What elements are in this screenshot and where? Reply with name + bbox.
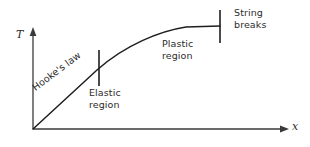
plastic-region-label-line1: Plastic — [162, 38, 193, 50]
string-breaks-label-line1: String — [234, 7, 266, 19]
y-axis-label: T — [16, 29, 23, 40]
elastic-region-label-line1: Elastic — [89, 87, 121, 99]
y-axis-arrowhead — [30, 27, 37, 36]
string-breaks-label-line2: breaks — [234, 19, 266, 31]
plastic-region-label: Plastic region — [162, 38, 193, 62]
plastic-region-label-line2: region — [162, 50, 193, 62]
x-axis-arrowhead — [280, 126, 289, 133]
stress-strain-figure: T x Hooke's law Elastic region Plastic r… — [0, 0, 310, 147]
elastic-region-label-line2: region — [89, 99, 121, 111]
x-axis-label: x — [292, 121, 298, 132]
string-breaks-label: String breaks — [234, 7, 266, 31]
elastic-region-label: Elastic region — [89, 87, 121, 111]
